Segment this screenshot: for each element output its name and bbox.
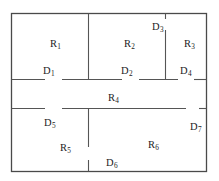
- room-label-R2: R2: [124, 39, 135, 50]
- door-label-D6: D6: [106, 158, 117, 169]
- room-label-R5: R5: [60, 143, 71, 154]
- floor-plan-walls: [0, 0, 219, 181]
- door-label-D5: D5: [44, 118, 55, 129]
- door-label-D1: D1: [43, 66, 54, 77]
- door-label-D4: D4: [180, 66, 191, 77]
- floor-plan-diagram: R1 R2 R3 R4 R5 R6 D1 D2 D3 D4 D5 D6 D7: [0, 0, 219, 181]
- door-label-D7: D7: [190, 122, 201, 133]
- door-label-D2: D2: [121, 66, 132, 77]
- room-label-R4: R4: [108, 93, 119, 104]
- door-label-D3: D3: [152, 22, 163, 33]
- room-label-R3: R3: [184, 39, 195, 50]
- room-label-R1: R1: [50, 39, 61, 50]
- room-label-R6: R6: [148, 140, 159, 151]
